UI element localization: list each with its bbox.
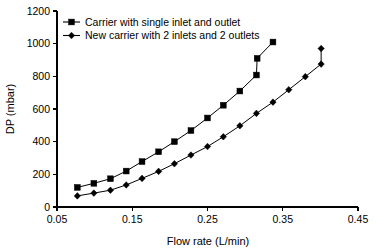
chart-canvas: 020040060080010001200 0.050.150.250.350.… — [0, 0, 378, 251]
x-tick-label: 0.15 — [122, 213, 143, 225]
data-point-square — [171, 139, 177, 145]
data-point-square — [188, 128, 194, 134]
data-point-square — [108, 176, 114, 182]
legend-item-1: Carrier with single inlet and outlet — [63, 16, 240, 28]
data-point-square — [237, 88, 243, 94]
y-tick-label: 400 — [32, 135, 50, 147]
y-tick-label: 800 — [32, 70, 50, 82]
legend-label: New carrier with 2 inlets and 2 outlets — [85, 29, 260, 41]
y-tick-label: 200 — [32, 168, 50, 180]
legend-item-2: New carrier with 2 inlets and 2 outlets — [63, 29, 260, 41]
y-axis-title: DP (mbar) — [4, 84, 16, 135]
data-point-square — [254, 72, 260, 78]
y-tick-label: 600 — [32, 103, 50, 115]
chart-legend: Carrier with single inlet and outletNew … — [63, 16, 260, 42]
x-tick-label: 0.45 — [348, 213, 369, 225]
data-point-square — [91, 180, 97, 186]
data-point-square — [123, 168, 129, 174]
y-tick-label: 1200 — [27, 5, 51, 17]
x-tick-label: 0.05 — [47, 213, 68, 225]
data-point-square — [254, 55, 260, 61]
y-tick-label: 0 — [44, 201, 50, 213]
data-point-square — [139, 159, 145, 165]
chart-figure: 020040060080010001200 0.050.150.250.350.… — [0, 0, 378, 251]
x-tick-label: 0.35 — [273, 213, 294, 225]
data-point-square — [270, 39, 276, 45]
y-tick-label: 1000 — [27, 37, 51, 49]
x-tick-label: 0.25 — [197, 213, 218, 225]
data-point-square — [69, 19, 75, 25]
data-point-square — [74, 185, 80, 191]
legend-label: Carrier with single inlet and outlet — [85, 16, 240, 28]
x-axis-title: Flow rate (L/min) — [167, 235, 250, 247]
data-point-square — [156, 149, 162, 155]
data-point-square — [205, 115, 211, 121]
data-point-square — [220, 102, 226, 108]
